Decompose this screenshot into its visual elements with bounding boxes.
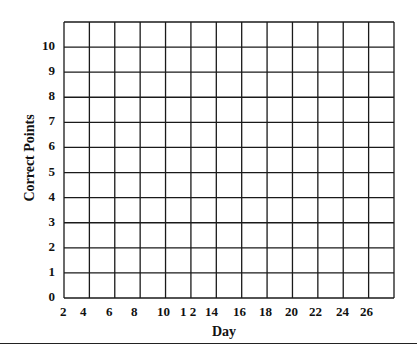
- x-tick-label: 18: [259, 304, 272, 320]
- chart-grid: [63, 21, 395, 299]
- x-tick-label: 20: [285, 304, 298, 320]
- y-axis-label: Correct Points: [22, 98, 38, 218]
- x-tick-label: 8: [131, 304, 138, 320]
- x-tick-label: 26: [360, 304, 373, 320]
- x-tick-label: 16: [233, 304, 246, 320]
- x-tick-label: 22: [309, 304, 322, 320]
- bottom-rule: [0, 343, 417, 344]
- x-axis-label: Day: [212, 324, 236, 340]
- x-tick-label: 14: [205, 304, 218, 320]
- x-tick-label: 10: [157, 304, 170, 320]
- x-tick-label: 4: [80, 304, 87, 320]
- x-tick-label: 24: [336, 304, 349, 320]
- x-tick-label: 6: [106, 304, 113, 320]
- y-tick-label: 9: [31, 63, 55, 79]
- y-tick-label: 10: [31, 38, 55, 54]
- y-tick-label: 1: [31, 264, 55, 280]
- y-tick-label: 2: [31, 239, 55, 255]
- x-tick-label: 2: [60, 304, 67, 320]
- y-tick-label: 0: [31, 289, 55, 305]
- x-tick-label: 1 2: [180, 304, 196, 320]
